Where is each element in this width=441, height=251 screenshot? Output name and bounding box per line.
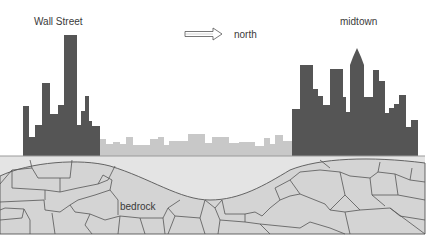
low-rise-skyline bbox=[100, 134, 292, 156]
midtown-skyline bbox=[292, 48, 418, 156]
bedrock-skyline-diagram: Wall Street north midtown bedrock bbox=[0, 0, 441, 251]
midtown-label: midtown bbox=[340, 16, 377, 27]
outline-right-arrow-icon bbox=[185, 28, 222, 40]
north-label: north bbox=[234, 29, 257, 40]
bedrock-label: bedrock bbox=[120, 201, 157, 212]
wall-street-skyline bbox=[23, 35, 100, 156]
wall-street-label: Wall Street bbox=[34, 16, 83, 27]
